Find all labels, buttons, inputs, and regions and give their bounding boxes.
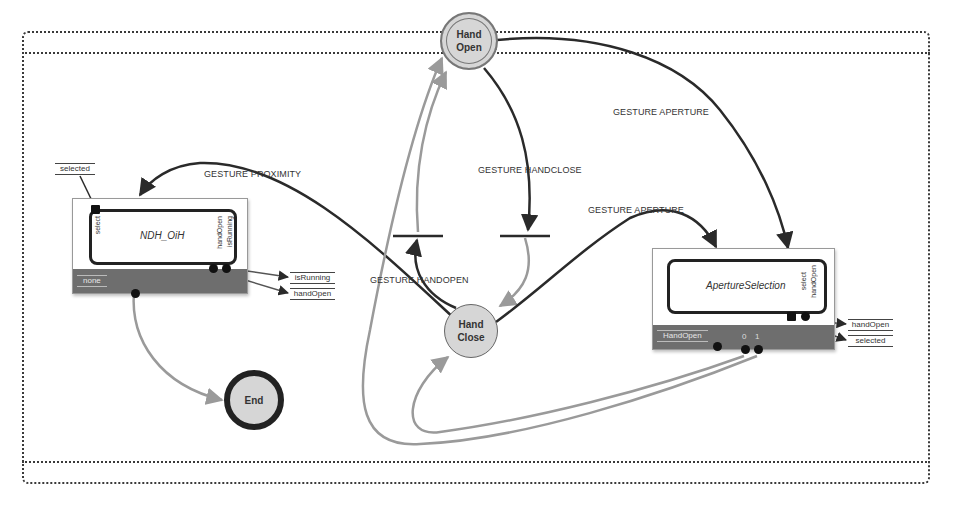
variable-aperture-selected[interactable]: selected: [848, 335, 893, 347]
component-ndh-oih[interactable]: NDH_OiH select handOpen isRunning none: [72, 198, 248, 294]
port-label-handopen: handOpen: [216, 216, 223, 249]
component-aperture-bar-label: HandOpen: [657, 330, 708, 342]
port-aperture-exit[interactable]: [713, 342, 722, 351]
variable-isrunning[interactable]: isRunning: [290, 272, 335, 284]
state-hand-close-line2: Close: [457, 332, 484, 343]
port-aperture-out-0[interactable]: [741, 345, 750, 354]
variable-selected-in[interactable]: selected: [55, 163, 95, 175]
port-handopen[interactable]: [209, 264, 218, 273]
variable-aperture-handopen[interactable]: handOpen: [848, 319, 893, 331]
transition-label-aperture-close: GESTURE APERTURE: [588, 205, 684, 215]
state-hand-open-line2: Open: [456, 42, 482, 53]
component-aperture-name: ApertureSelection: [706, 280, 786, 291]
port-aperture-handopen[interactable]: [801, 312, 810, 321]
variable-handopen[interactable]: handOpen: [290, 288, 335, 300]
component-ndh-name: NDH_OiH: [140, 230, 184, 241]
state-hand-close[interactable]: HandClose: [444, 304, 498, 358]
component-aperture-inner: ApertureSelection select handOpen: [667, 259, 827, 314]
edge-handclose: [484, 68, 530, 230]
state-hand-open[interactable]: HandOpen: [440, 12, 498, 70]
component-ndh-bar-label: none: [77, 275, 107, 287]
port-select[interactable]: [91, 205, 100, 214]
component-ndh-inner: NDH_OiH select handOpen isRunning: [89, 209, 237, 265]
edge-handclose-gray: [500, 238, 529, 306]
state-machine-diagram: Main: [0, 0, 968, 508]
edge-aperture-from-open: [497, 38, 788, 248]
state-end[interactable]: End: [224, 370, 284, 430]
port-aperture-out-1[interactable]: [754, 345, 763, 354]
edge-handopen: [415, 240, 456, 308]
component-ndh-bar: none: [73, 269, 247, 293]
transition-label-aperture-open: GESTURE APERTURE: [613, 107, 709, 117]
port-ndh-exit[interactable]: [131, 289, 140, 298]
transition-label-handclose: GESTURE HANDCLOSE: [478, 165, 582, 175]
output-index-0: 0: [742, 332, 746, 341]
state-hand-close-line1: Hand: [458, 319, 483, 330]
component-aperture-selection[interactable]: ApertureSelection select handOpen HandOp…: [652, 248, 835, 350]
edge-ndh-end: [134, 292, 222, 400]
edge-handopen-gray: [417, 72, 446, 232]
port-aperture-select[interactable]: [787, 312, 796, 321]
port-label-aperture-handopen: handOpen: [810, 265, 817, 298]
port-label-isrunning: isRunning: [226, 216, 233, 247]
edge-aperture-out-0: [413, 356, 744, 433]
transition-label-proximity: GESTURE PROXIMITY: [204, 169, 301, 179]
transition-label-handopen: GESTURE HANDOPEN: [370, 275, 469, 285]
state-end-label: End: [245, 394, 264, 407]
port-label-select: select: [94, 216, 101, 234]
state-hand-open-line1: Hand: [457, 29, 482, 40]
port-label-aperture-select: select: [800, 272, 807, 290]
output-index-1: 1: [755, 332, 759, 341]
port-isrunning[interactable]: [222, 264, 231, 273]
